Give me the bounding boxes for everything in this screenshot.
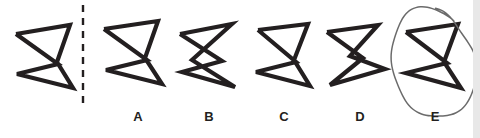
puzzle-canvas (0, 0, 480, 138)
option-e-label[interactable]: E (425, 110, 445, 124)
option-d-label[interactable]: D (350, 110, 370, 124)
option-c-label[interactable]: C (274, 110, 294, 124)
canvas-background (0, 0, 480, 138)
option-b-label[interactable]: B (199, 110, 219, 124)
option-a-label[interactable]: A (128, 110, 148, 124)
shape-matching-puzzle: A B C D E (0, 0, 480, 138)
page-edge-strip (473, 0, 480, 138)
